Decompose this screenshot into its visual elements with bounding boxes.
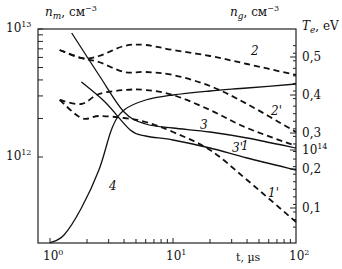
curve-label: 2 — [250, 44, 259, 58]
y-right-tick-0.2: 0,2 — [302, 163, 321, 175]
data-curves — [50, 33, 296, 243]
y-right-top-axis-title: ng, см−3 — [230, 6, 279, 21]
curve-label: 4 — [108, 179, 117, 193]
curve-label: 3' — [232, 141, 243, 155]
curve-2-prime — [60, 50, 296, 132]
curve-labels: 11'22'33'4 — [108, 44, 282, 200]
y-left-axis-title: nm, см−3 — [45, 6, 97, 21]
y-right-tick-1e14: 1014 — [302, 144, 327, 156]
y-right-tick-0.1: 0,1 — [302, 202, 321, 214]
y-right-tick-0.4: 0,4 — [302, 89, 321, 101]
x-axis-title: t, µs — [236, 252, 260, 263]
y-right-tick-0.3: 0,3 — [302, 127, 321, 139]
x-tick-1e1: 101 — [166, 250, 186, 262]
curve-4 — [50, 84, 296, 243]
y-right-axis-title: Te, eV — [302, 20, 339, 35]
curve-3 — [72, 33, 296, 148]
x-tick-1e2: 102 — [289, 250, 309, 262]
chart-canvas: 11'22'33'4 — [0, 0, 342, 269]
y-left-tick-1e13: 1013 — [6, 22, 31, 34]
plot-frame — [38, 29, 296, 243]
curve-label: 3 — [200, 118, 208, 132]
y-left-tick-1e12: 1012 — [6, 150, 31, 162]
axis-ticks — [38, 29, 296, 243]
curve-label: 2' — [270, 104, 282, 118]
y-right-tick-0.5: 0,5 — [302, 51, 321, 63]
curve-label: 1' — [268, 186, 279, 200]
curve-1 — [60, 89, 296, 146]
x-tick-1e0: 100 — [43, 250, 63, 262]
